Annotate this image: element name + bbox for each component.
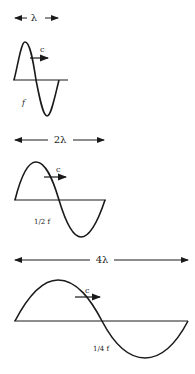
panel-2: 2λ c 1/2 f xyxy=(14,134,106,237)
wavelength-label: 2λ xyxy=(54,134,67,145)
panel-3: 4λ c 1/4 f xyxy=(14,254,188,358)
speed-label: c xyxy=(56,165,61,174)
wavelength-label: λ xyxy=(31,12,38,23)
wavelength-label: 4λ xyxy=(96,254,109,265)
panel-1: λ c f xyxy=(13,12,68,116)
speed-label: c xyxy=(40,45,45,54)
frequency-label: 1/2 f xyxy=(34,218,51,226)
sine-wave xyxy=(14,42,59,116)
frequency-label: 1/4 f xyxy=(93,345,110,353)
wave-diagram: λ c f 2λ c 1/2 f 4λ c 1/4 f xyxy=(0,0,195,374)
speed-label: c xyxy=(85,286,90,295)
frequency-label: f xyxy=(21,98,27,107)
